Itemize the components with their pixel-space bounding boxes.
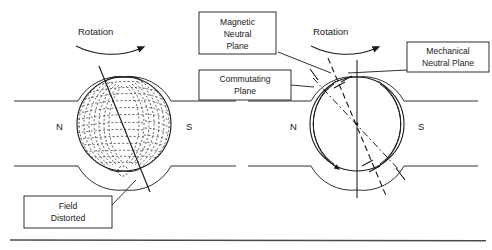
right-armature-center-dot bbox=[356, 123, 359, 126]
callout-magnetic-neutral-plane-line2: Neutral bbox=[224, 29, 252, 39]
right-rotation-label: Rotation bbox=[313, 26, 348, 37]
callout-magnetic-neutral-plane-line1: Magnetic bbox=[220, 17, 256, 27]
callout-field-distorted-line1: Field bbox=[59, 201, 78, 211]
right-pole-label-south: S bbox=[418, 121, 424, 132]
footer-rule bbox=[10, 240, 486, 241]
callout-commutating-plane-line1: Commutating bbox=[219, 74, 270, 84]
callout-mechanical-neutral-plane-line2: Neutral Plane bbox=[422, 58, 474, 68]
left-pole-label-south: S bbox=[186, 121, 192, 132]
left-rotation-label: Rotation bbox=[78, 26, 113, 37]
callout-field-distorted-line2: Distorted bbox=[51, 213, 86, 223]
left-pole-label-north: N bbox=[56, 121, 63, 132]
callout-mechanical-neutral-plane-line1: Mechanical bbox=[426, 46, 470, 56]
right-pole-label-north: N bbox=[290, 121, 297, 132]
callout-commutating-plane-line2: Plane bbox=[234, 86, 256, 96]
diagram-canvas: Rotation N S Field Distorted bbox=[0, 0, 492, 250]
callout-magnetic-neutral-plane-line3: Plane bbox=[227, 41, 249, 51]
